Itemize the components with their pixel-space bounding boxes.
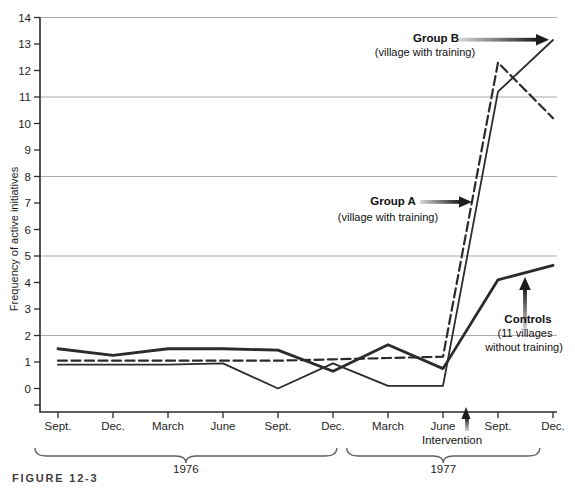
y-tick-label: 10 <box>18 118 31 130</box>
x-tick-label: March <box>372 420 404 432</box>
year-label: 1977 <box>430 463 456 475</box>
figure-caption-label: FIGURE 12-3 <box>12 472 98 484</box>
x-tick-label: June <box>211 420 236 432</box>
y-tick-label: 12 <box>18 65 31 77</box>
y-tick-label: 4 <box>25 277 32 289</box>
year-label: 1976 <box>173 463 199 475</box>
y-axis-title: Frequency of active initiatives <box>8 139 20 339</box>
y-tick-label: 8 <box>25 171 31 183</box>
axes <box>40 18 557 413</box>
series-line-group-a <box>58 63 553 361</box>
x-tick-label: Dec. <box>101 420 125 432</box>
group-b-arrow-icon <box>459 34 549 45</box>
group-a-arrow-icon <box>420 196 472 207</box>
y-tick-label: 11 <box>19 91 31 103</box>
y-tick-label: 7 <box>25 197 31 209</box>
group-b-sublabel: (village with training) <box>375 46 475 58</box>
y-tick-label: 14 <box>18 12 31 24</box>
x-tick-label: Dec. <box>541 420 565 432</box>
y-tick-label: 6 <box>25 224 31 236</box>
intervention-arrow-icon <box>462 407 471 431</box>
controls-label: Controls <box>504 313 551 325</box>
group-a-label: Group A <box>370 195 416 207</box>
y-tick-label: 9 <box>25 144 31 156</box>
y-tick-label: 5 <box>25 250 31 262</box>
y-tick-label: 1 <box>25 356 31 368</box>
controls-sublabel-line1: (11 villages <box>498 327 553 339</box>
group-a-sublabel: (village with training) <box>338 211 438 223</box>
x-tick-label: June <box>431 420 456 432</box>
figure-12-3: 01234567891011121314Sept.Dec.MarchJuneSe… <box>0 0 575 489</box>
year-brace-1977 <box>347 448 540 463</box>
controls-sublabel-line2: without training) <box>485 341 563 353</box>
y-tick-label: 13 <box>18 38 31 50</box>
x-tick-label: March <box>152 420 184 432</box>
y-tick-label: 3 <box>25 303 31 315</box>
x-tick-label: Sept. <box>485 420 512 432</box>
intervention-label: Intervention <box>422 434 482 446</box>
x-tick-label: Dec. <box>321 420 345 432</box>
series-line-controls <box>58 265 553 371</box>
year-brace-1976 <box>35 448 337 463</box>
y-tick-label: 0 <box>25 383 31 395</box>
y-tick-label: 2 <box>25 330 31 342</box>
chart-svg: 01234567891011121314Sept.Dec.MarchJuneSe… <box>0 0 575 489</box>
x-tick-label: Sept. <box>45 420 72 432</box>
x-tick-label: Sept. <box>265 420 292 432</box>
series-line-group-b <box>58 40 553 388</box>
group-b-label: Group B <box>413 32 459 44</box>
